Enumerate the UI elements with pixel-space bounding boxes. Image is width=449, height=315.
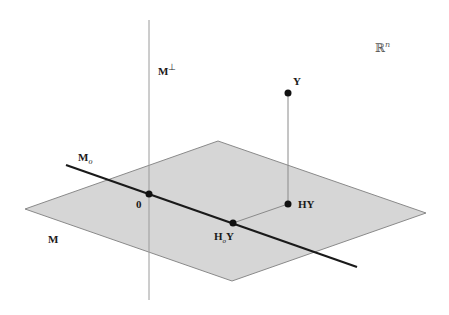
point-y [285,90,292,97]
label-m-perp: M⊥ [158,62,176,77]
point-origin [146,191,153,198]
label-hy: HY [298,198,315,210]
point-hoy [230,220,237,227]
label-space-rn: ℝn [375,40,390,55]
label-origin: 0 [136,198,142,210]
label-mo: Mo [78,151,92,166]
point-hy [285,201,292,208]
label-plane-m: M [48,233,59,245]
label-y: Y [293,75,301,87]
projection-diagram: ℝn M⊥ Y Mo 0 HY HoY M [0,0,449,315]
